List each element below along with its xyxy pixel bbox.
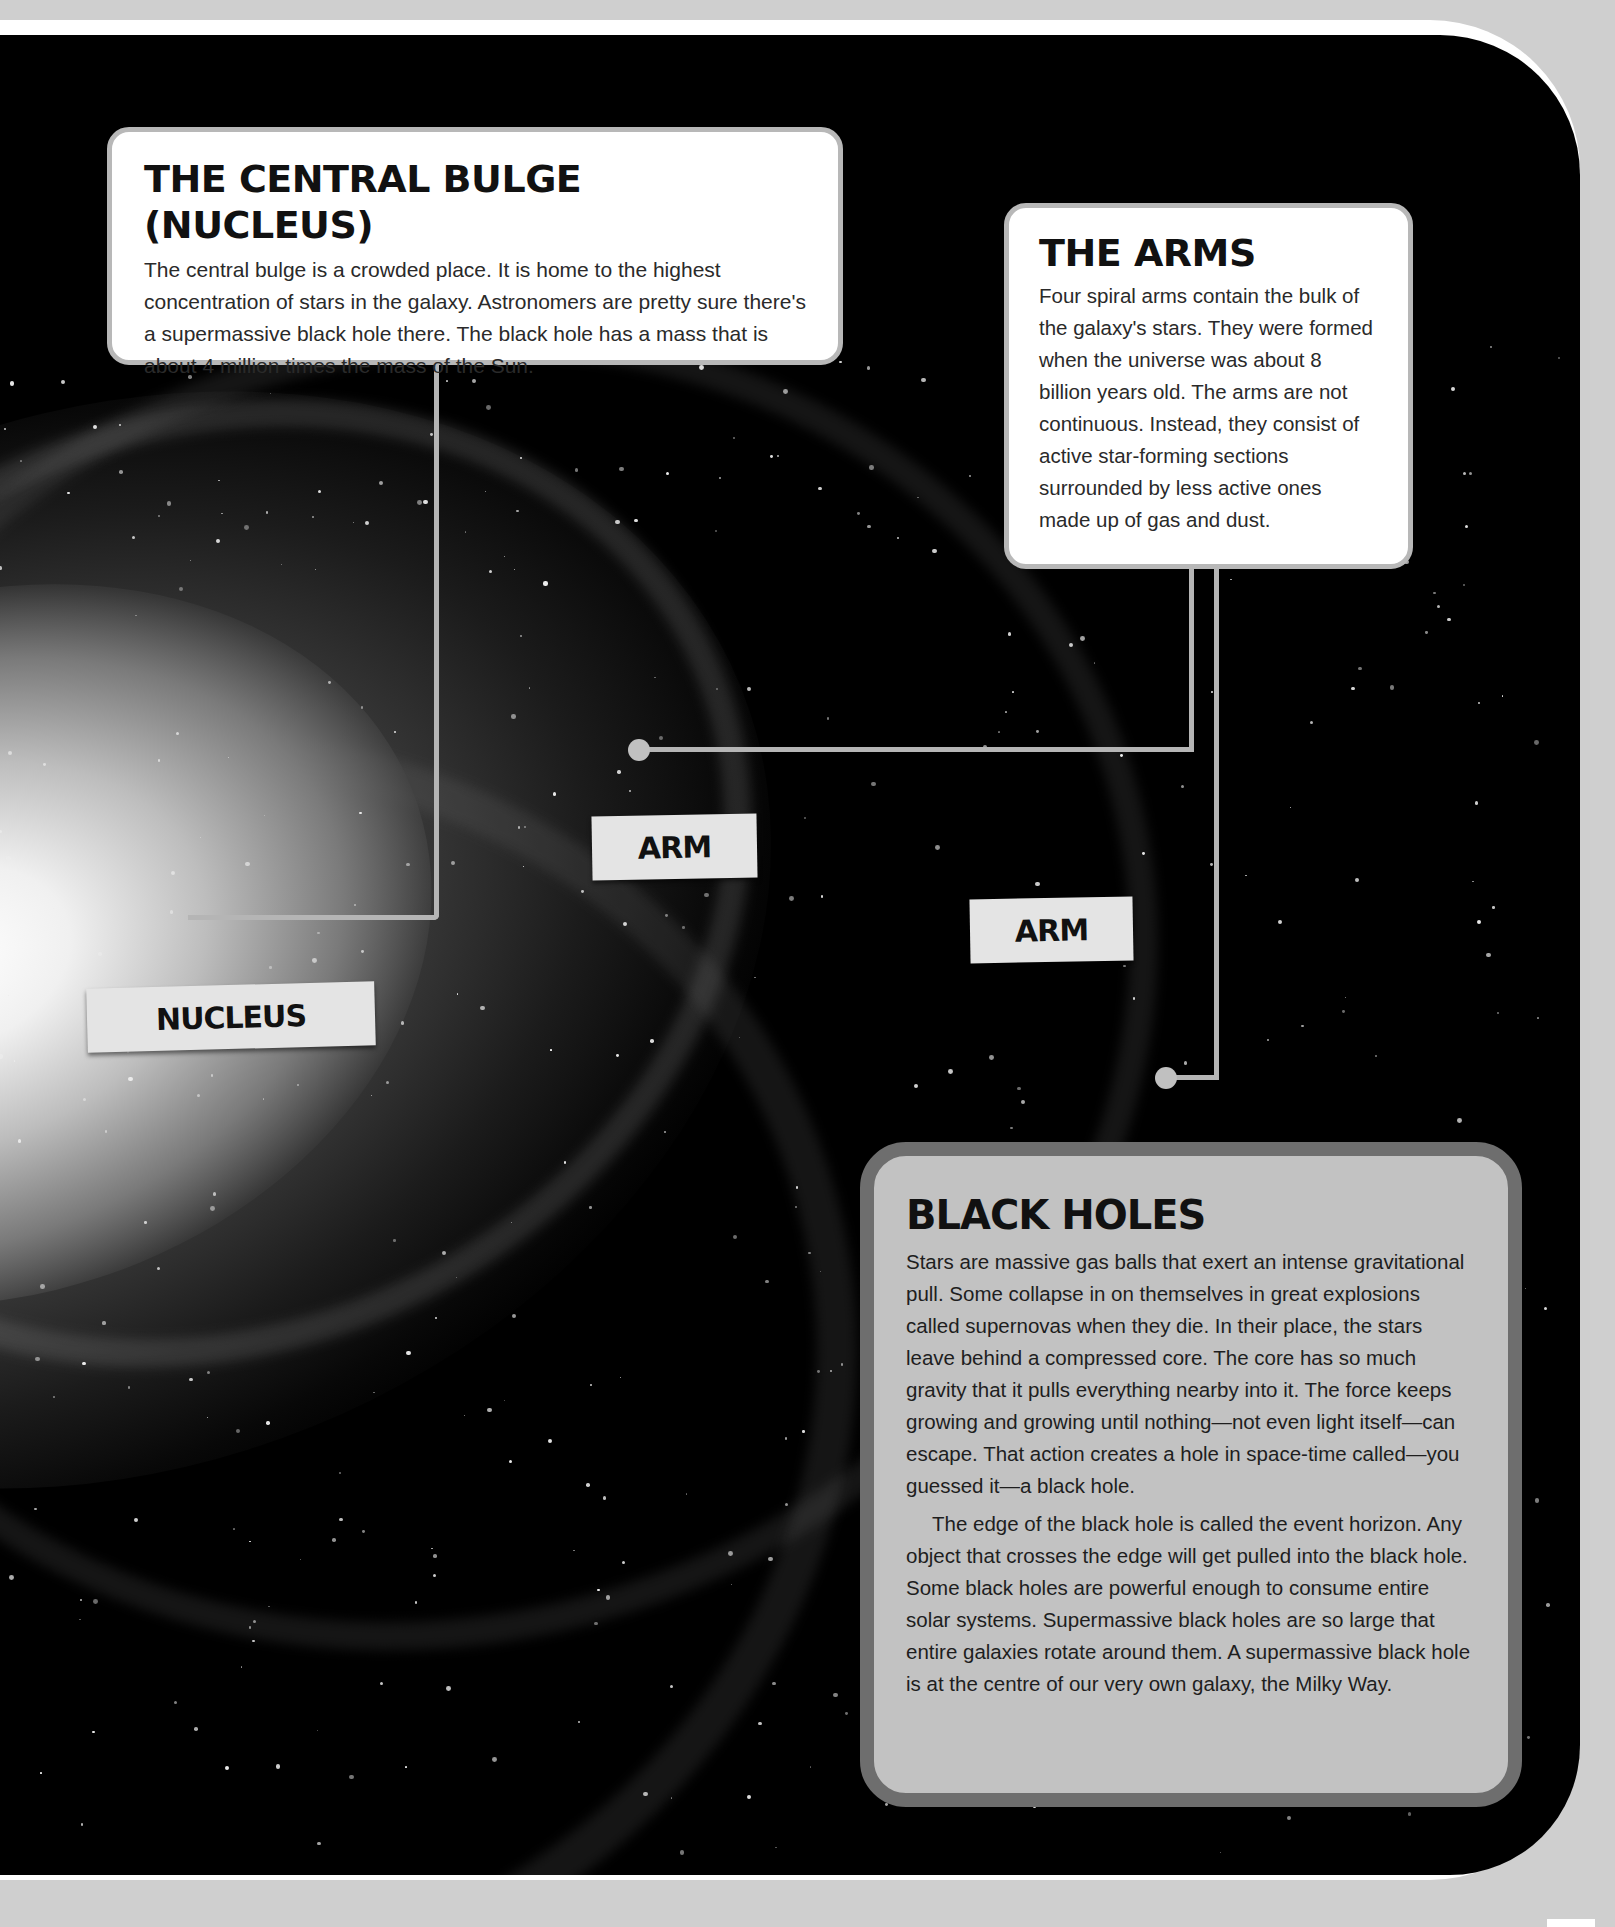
- black-holes-paragraph-1: Stars are massive gas balls that exert a…: [906, 1246, 1476, 1502]
- page-corner-tab: [1547, 1919, 1595, 1927]
- black-holes-title: BLACK HOLES: [906, 1190, 1476, 1240]
- arms-card: THE ARMS Four spiral arms contain the bu…: [1004, 203, 1413, 569]
- bulge-connector-horizontal: [188, 915, 439, 920]
- arms-body: Four spiral arms contain the bulk of the…: [1039, 280, 1378, 536]
- arms-connector-1-vertical: [1189, 566, 1194, 752]
- arm-label: ARM: [591, 814, 757, 881]
- central-bulge-body: The central bulge is a crowded place. It…: [144, 254, 806, 382]
- arm-pointer-dot: [628, 739, 650, 761]
- black-holes-paragraph-2: The edge of the black hole is called the…: [906, 1508, 1476, 1700]
- central-bulge-title: THE CENTRAL BULGE (NUCLEUS): [144, 156, 806, 248]
- arms-connector-2-horizontal: [1170, 1075, 1219, 1080]
- arms-connector-1-horizontal: [640, 747, 1194, 752]
- bulge-connector-vertical: [434, 362, 439, 920]
- central-bulge-card: THE CENTRAL BULGE (NUCLEUS) The central …: [107, 127, 843, 365]
- arms-title: THE ARMS: [1039, 230, 1378, 276]
- arm-pointer-dot: [1155, 1067, 1177, 1089]
- arm-label: ARM: [969, 897, 1133, 964]
- arms-connector-2-vertical: [1214, 566, 1219, 1080]
- black-holes-panel: BLACK HOLES Stars are massive gas balls …: [860, 1142, 1522, 1807]
- nucleus-label: NUCLEUS: [86, 981, 376, 1053]
